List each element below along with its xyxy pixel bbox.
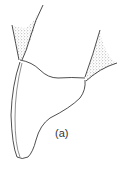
main-body-shape [11,62,85,159]
diagram-drawing [0,0,127,170]
connecting-curve [20,60,85,78]
left-stippled-wedge [12,5,43,60]
figure-label: (a) [55,127,68,139]
right-stippled-wedge [85,30,117,81]
